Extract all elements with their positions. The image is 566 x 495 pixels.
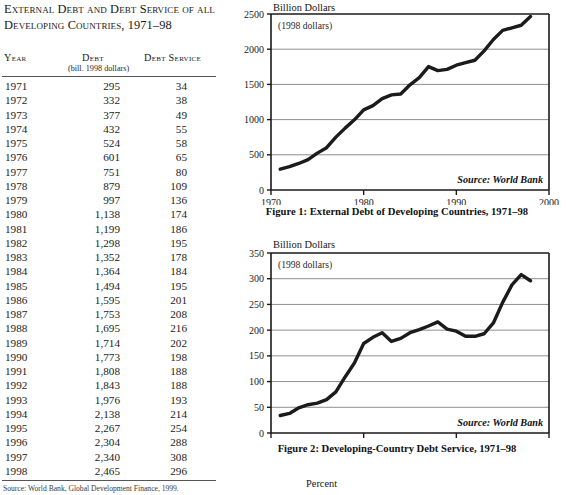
tick-label-y: 2500: [244, 9, 264, 20]
tick-label-y: 1500: [244, 79, 264, 90]
cell-year: 1985: [5, 280, 27, 292]
table-row: 19841,364184: [2, 265, 218, 279]
table-row: 197660165: [2, 151, 218, 165]
data-series-line: [280, 16, 530, 169]
table-body: 1971295341972332381973377491974432551975…: [2, 80, 218, 479]
table-row: 19801,138174: [2, 208, 218, 222]
cell-year: 1973: [5, 109, 27, 121]
cell-debt: 1,494: [42, 280, 120, 292]
cell-debt-service: 34: [127, 80, 187, 92]
tick-label-y: 1000: [244, 114, 264, 125]
plot-source-note: Source: World Bank: [457, 174, 544, 185]
cell-debt-service: 201: [127, 294, 187, 306]
table-row: 19921,843188: [2, 379, 218, 393]
cell-debt-service: 214: [127, 408, 187, 420]
table-bottom-rule: [2, 480, 216, 481]
table-row: 19831,352178: [2, 251, 218, 265]
data-series-line: [280, 275, 530, 416]
cell-debt: 1,352: [42, 251, 120, 263]
table-row: 19911,808188: [2, 365, 218, 379]
table-header-row: Year Debt Debt Service (bill. 1998 dolla…: [4, 52, 216, 78]
table-row: 19952,267254: [2, 422, 218, 436]
cell-year: 1987: [5, 308, 27, 320]
table-row: 19811,199186: [2, 223, 218, 237]
figures-panel: Billion Dollars 050010001500200025001970…: [228, 0, 566, 495]
cell-debt: 1,199: [42, 223, 120, 235]
cell-debt: 432: [42, 123, 120, 135]
table-row: 197552458: [2, 137, 218, 151]
plot-unit-note: (1998 dollars): [278, 20, 332, 32]
cell-debt-service: 208: [127, 308, 187, 320]
table-row: 19891,714202: [2, 337, 218, 351]
table-row: 197129534: [2, 80, 218, 94]
column-header-debt: Debt: [82, 52, 104, 63]
debt-data-table-panel: External Debt and Debt Service of all De…: [0, 0, 228, 495]
cell-year: 1994: [5, 408, 27, 420]
table-row: 19942,138214: [2, 408, 218, 422]
tick-label-x: 1980: [354, 440, 374, 442]
table-title: External Debt and Debt Service of all De…: [4, 2, 220, 33]
cell-debt: 2,267: [42, 422, 120, 434]
tick-label-x: 1980: [354, 197, 374, 205]
cell-debt-service: 80: [127, 166, 187, 178]
cell-year: 1988: [5, 322, 27, 334]
table-row: 19982,465296: [2, 465, 218, 479]
cell-debt-service: 109: [127, 180, 187, 192]
cell-year: 1977: [5, 166, 27, 178]
table-row: 19821,298195: [2, 237, 218, 251]
cell-debt: 2,465: [42, 465, 120, 477]
table-row: 19851,494195: [2, 280, 218, 294]
cell-debt-service: 58: [127, 137, 187, 149]
cell-year: 1971: [5, 80, 27, 92]
cell-year: 1972: [5, 94, 27, 106]
cell-year: 1998: [5, 465, 27, 477]
cell-debt: 1,808: [42, 365, 120, 377]
cell-debt-service: 55: [127, 123, 187, 135]
cell-debt: 997: [42, 194, 120, 206]
cell-debt-service: 202: [127, 337, 187, 349]
figure-1: Billion Dollars 050010001500200025001970…: [228, 0, 566, 222]
cell-debt: 1,695: [42, 322, 120, 334]
table-row: 1978879109: [2, 180, 218, 194]
table-row: 197233238: [2, 94, 218, 108]
cell-debt-service: 178: [127, 251, 187, 263]
table-row: 19881,695216: [2, 322, 218, 336]
cell-year: 1990: [5, 351, 27, 363]
tick-label-y: 150: [249, 350, 264, 361]
tick-label-x: 1970: [261, 197, 281, 205]
table-row: 1979997136: [2, 194, 218, 208]
cell-year: 1981: [5, 223, 27, 235]
cell-debt: 1,753: [42, 308, 120, 320]
cell-debt-service: 188: [127, 379, 187, 391]
cell-year: 1984: [5, 265, 27, 277]
figure-1-caption: Figure 1: External Debt of Developing Co…: [228, 206, 566, 217]
column-header-year: Year: [4, 52, 27, 63]
cell-debt: 524: [42, 137, 120, 149]
cell-debt: 601: [42, 151, 120, 163]
cell-debt-service: 188: [127, 365, 187, 377]
cell-debt-service: 254: [127, 422, 187, 434]
cell-debt: 751: [42, 166, 120, 178]
cell-year: 1979: [5, 194, 27, 206]
cell-debt-service: 136: [127, 194, 187, 206]
table-source-note: Source: World Bank, Global Development F…: [3, 484, 233, 493]
tick-label-y: 0: [259, 185, 264, 196]
cell-debt-service: 296: [127, 465, 187, 477]
cell-year: 1976: [5, 151, 27, 163]
tick-label-x: 1990: [446, 197, 466, 205]
table-row: 19931,976193: [2, 394, 218, 408]
tick-label-y: 250: [249, 299, 264, 310]
cell-debt-service: 216: [127, 322, 187, 334]
cell-debt-service: 308: [127, 451, 187, 463]
cell-year: 1974: [5, 123, 27, 135]
figure-2-plot: 0501001502002503003501970198019902000(19…: [228, 237, 566, 442]
plot-source-note: Source: World Bank: [457, 417, 544, 428]
cell-year: 1992: [5, 379, 27, 391]
cell-debt-service: 288: [127, 436, 187, 448]
cell-debt-service: 184: [127, 265, 187, 277]
cell-debt: 1,843: [42, 379, 120, 391]
cell-debt-service: 195: [127, 237, 187, 249]
table-row: 19962,304288: [2, 436, 218, 450]
tick-label-x: 1990: [446, 440, 466, 442]
column-header-units: (bill. 1998 dollars): [68, 64, 129, 73]
